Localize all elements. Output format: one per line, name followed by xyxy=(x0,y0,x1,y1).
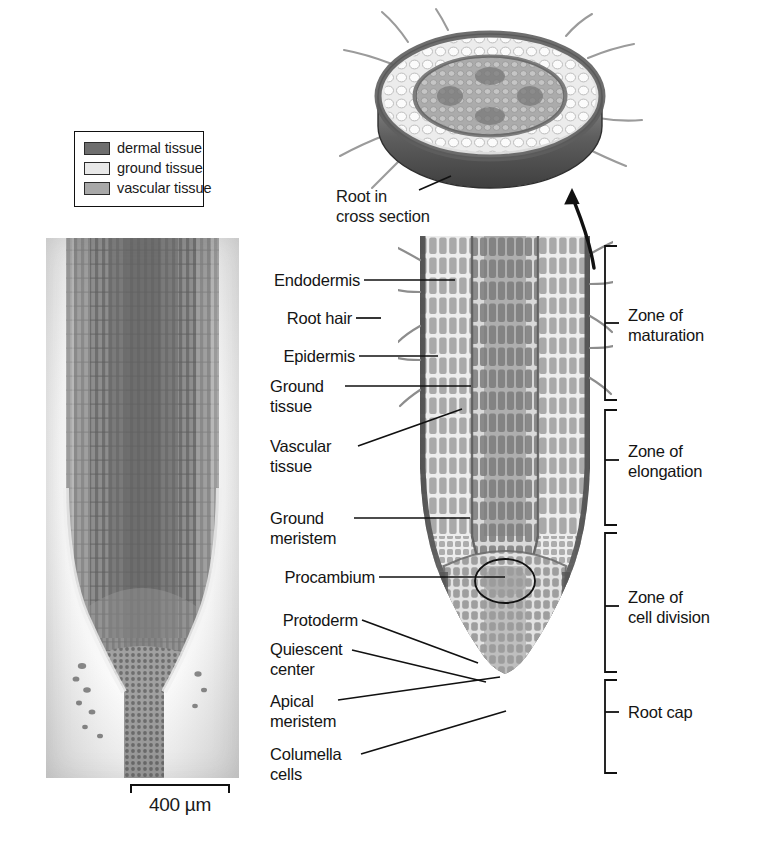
root-anatomy-figure: dermal tissue ground tissue vascular tis… xyxy=(0,0,758,850)
dermal-tissue-swatch xyxy=(84,142,110,155)
legend-label-dermal: dermal tissue xyxy=(117,141,202,156)
label-ground-meristem: Ground meristem xyxy=(270,508,400,548)
zone-label-maturation: Zone of maturation xyxy=(628,305,704,345)
legend-item-vascular: vascular tissue xyxy=(84,179,195,198)
label-vascular-tissue: Vascular tissue xyxy=(270,436,390,476)
legend-label-ground: ground tissue xyxy=(117,161,203,176)
label-protoderm: Protoderm xyxy=(150,610,358,630)
label-quiescent-center: Quiescent center xyxy=(270,639,400,679)
label-columella-cells: Columella cells xyxy=(270,744,400,784)
zone-label-elongation: Zone of elongation xyxy=(628,441,702,481)
scale-bar-label: 400 µm xyxy=(128,794,232,816)
zone-label-root-cap: Root cap xyxy=(628,702,692,722)
label-procambium: Procambium xyxy=(150,567,375,587)
label-root-hair: Root hair xyxy=(150,308,352,328)
legend-label-vascular: vascular tissue xyxy=(117,181,211,196)
scale-bar-line xyxy=(130,784,230,793)
ground-tissue-swatch xyxy=(84,162,110,175)
root-longitudinal-illustration xyxy=(398,236,613,785)
cross-section-caption: Root in cross section xyxy=(336,186,430,226)
zone-label-cell-division: Zone of cell division xyxy=(628,587,710,627)
root-cross-section-illustration xyxy=(330,6,650,200)
longitudinal-root-drawing xyxy=(398,236,613,781)
label-epidermis: Epidermis xyxy=(150,346,355,366)
cross-section-drawing xyxy=(330,6,650,196)
tissue-legend: dermal tissue ground tissue vascular tis… xyxy=(74,131,204,207)
legend-item-dermal: dermal tissue xyxy=(84,139,195,158)
legend-item-ground: ground tissue xyxy=(84,159,195,178)
vascular-tissue-swatch xyxy=(84,182,110,195)
label-endodermis: Endodermis xyxy=(150,270,360,290)
scale-bar: 400 µm xyxy=(128,784,232,816)
label-ground-tissue: Ground tissue xyxy=(270,376,390,416)
label-apical-meristem: Apical meristem xyxy=(270,691,400,731)
